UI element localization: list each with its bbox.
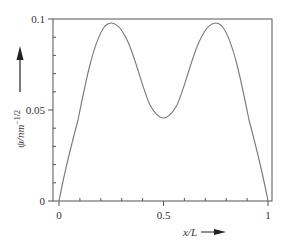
x-axis-label: x/L: [182, 226, 197, 238]
y-axis-arrow-icon: [17, 46, 24, 92]
svg-text:ψ/nm−1/2: ψ/nm−1/2: [13, 110, 26, 148]
x-axis-ticks: [59, 198, 268, 206]
wavefunction-curve: [59, 23, 268, 201]
y-tick-label-zero: 0: [40, 195, 46, 207]
plot-frame: [53, 19, 272, 201]
y-tick-label-top: 0.1: [31, 13, 45, 25]
y-axis-label: ψ/nm−1/2: [13, 110, 26, 148]
chart: 0.1 0.05 0 0 0.5 1 x/L ψ/nm−1/2: [0, 0, 287, 244]
x-tick-label-one: 1: [265, 209, 271, 221]
y-axis-label-exp: −1/2: [13, 110, 22, 125]
x-tick-label-zero: 0: [56, 209, 62, 221]
x-axis-arrow-icon: [201, 229, 226, 235]
y-tick-label-mid: 0.05: [26, 104, 46, 116]
y-axis-label-var: ψ/nm: [14, 125, 26, 148]
y-axis-ticks: [48, 19, 56, 201]
x-tick-label-mid: 0.5: [157, 209, 171, 221]
